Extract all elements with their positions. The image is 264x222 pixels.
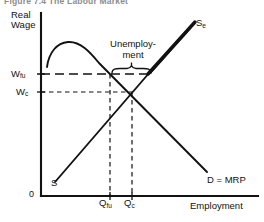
y-axis-label-line2: Wage bbox=[11, 19, 35, 30]
wage-c-label: Wc bbox=[16, 87, 28, 97]
wage-fu-symbol: W bbox=[11, 68, 20, 79]
wage-fu-subscript: fu bbox=[20, 72, 26, 79]
labour-market-plot bbox=[0, 0, 264, 222]
quantity-c-label: Qc bbox=[124, 198, 135, 208]
supply-curve-label: S bbox=[51, 178, 57, 188]
y-axis-label: Real Wage bbox=[11, 10, 35, 30]
unemployment-annotation: Unemploy- ment bbox=[100, 39, 166, 60]
quantity-c-subscript: c bbox=[131, 202, 134, 209]
supply-curve-upper-subscript: e bbox=[202, 22, 206, 29]
supply-curve-lower bbox=[55, 72, 150, 182]
wage-c-symbol: W bbox=[16, 86, 25, 97]
x-axis-label: Employment bbox=[190, 201, 243, 211]
quantity-fu-subscript: fu bbox=[106, 202, 112, 209]
demand-curve-label: D = MRP bbox=[207, 175, 246, 185]
supply-curve-upper-label: Se bbox=[196, 18, 206, 28]
wage-fu-label: Wfu bbox=[11, 69, 25, 79]
demand-curve-mrp bbox=[47, 42, 207, 172]
quantity-fu-label: Qfu bbox=[99, 198, 112, 208]
unemployment-line2: ment bbox=[122, 49, 143, 60]
origin-label: 0 bbox=[29, 190, 34, 199]
wage-c-subscript: c bbox=[25, 90, 28, 97]
unemployment-brace bbox=[112, 66, 151, 73]
labour-market-figure: Figure 7.4 The Labour Market Real Wa bbox=[0, 0, 264, 222]
unemployment-line1: Unemploy- bbox=[110, 38, 156, 49]
